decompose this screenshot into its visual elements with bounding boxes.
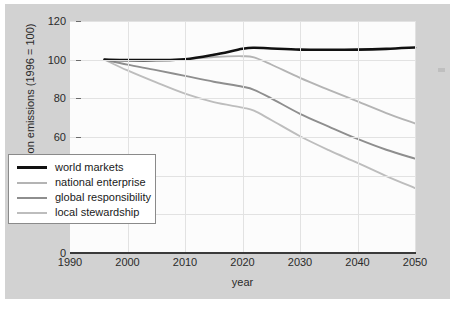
chart-figure: 020406080100120 199020002010202020302040…: [0, 0, 455, 309]
legend-label-global-responsibility: global responsibility: [55, 191, 151, 204]
legend-swatch-global-responsibility: [17, 197, 47, 199]
legend-item-national-enterprise: national enterprise: [17, 175, 155, 190]
x-axis-title: year: [70, 276, 415, 288]
legend-label-world-markets: world markets: [55, 161, 123, 174]
x-tick-label: 2010: [173, 256, 197, 268]
legend-item-local-stewardship: local stewardship: [17, 205, 155, 220]
gridline-vertical: [358, 21, 359, 253]
x-tick-label: 2030: [288, 256, 312, 268]
y-tick-mark: [76, 137, 81, 138]
legend-swatch-local-stewardship: [17, 212, 47, 214]
chart-legend: world markets national enterprise global…: [8, 154, 156, 224]
gridline-vertical: [243, 21, 244, 253]
legend-item-world-markets: world markets: [17, 160, 155, 175]
series-line-world-markets: [105, 47, 416, 60]
x-tick-label: 2050: [403, 256, 427, 268]
x-tick-label: 2000: [115, 256, 139, 268]
gridline-vertical: [415, 21, 416, 253]
scan-artifact: [438, 68, 445, 72]
y-tick-mark: [76, 21, 81, 22]
legend-swatch-national-enterprise: [17, 182, 47, 184]
x-tick-label: 2020: [230, 256, 254, 268]
series-line-global-responsibility: [105, 60, 416, 159]
legend-swatch-world-markets: [17, 166, 47, 169]
y-tick-mark: [76, 60, 81, 61]
legend-item-global-responsibility: global responsibility: [17, 190, 155, 205]
x-tick-label: 1990: [58, 256, 82, 268]
y-tick-mark: [76, 98, 81, 99]
legend-label-national-enterprise: national enterprise: [55, 176, 146, 189]
legend-label-local-stewardship: local stewardship: [55, 206, 139, 219]
gridline-vertical: [185, 21, 186, 253]
x-axis-line: [70, 252, 416, 254]
gridline-vertical: [300, 21, 301, 253]
x-tick-label: 2040: [345, 256, 369, 268]
